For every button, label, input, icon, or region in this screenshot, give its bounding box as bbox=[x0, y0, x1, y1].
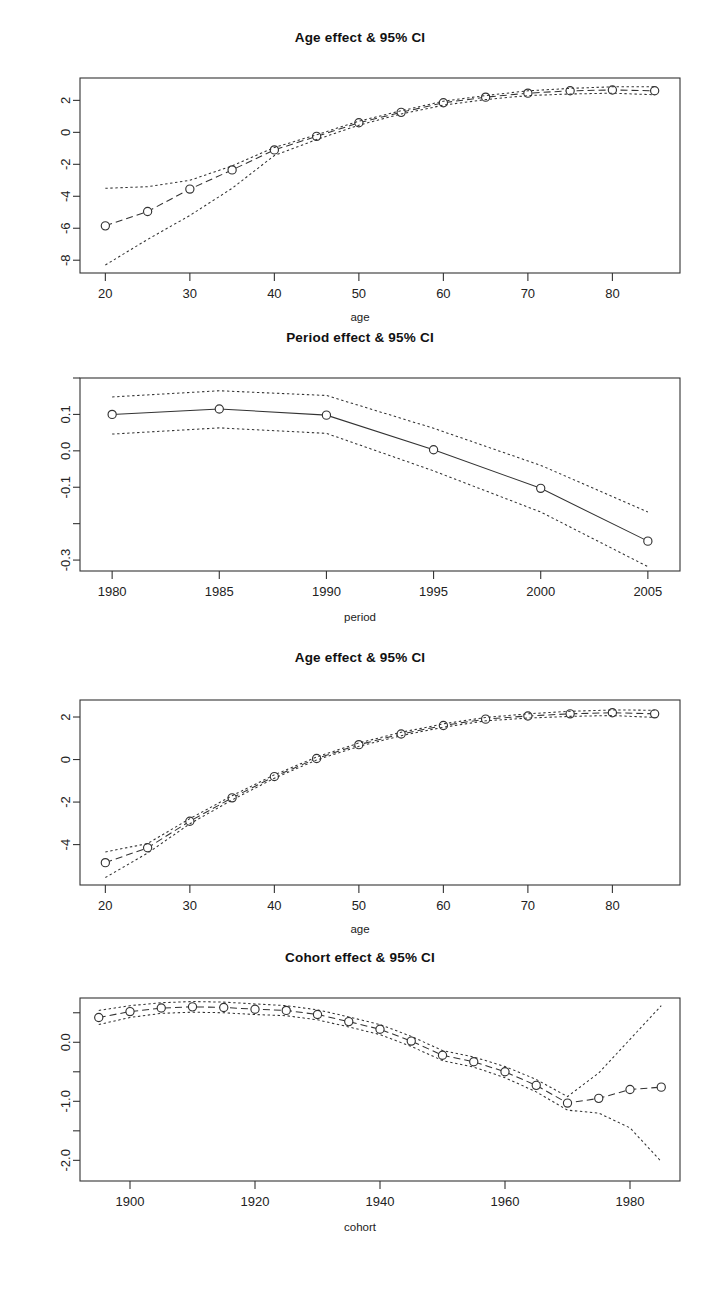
x-tick-label: 50 bbox=[352, 286, 366, 301]
data-point-marker bbox=[144, 207, 152, 215]
series-estimate bbox=[105, 713, 654, 863]
x-tick-label: 40 bbox=[267, 286, 281, 301]
series-lower-95-ci bbox=[112, 428, 648, 567]
plot-box bbox=[80, 700, 680, 885]
data-point-marker bbox=[537, 484, 545, 492]
chart-panel-period-effect: Period effect & 95% CI0.10.0-0.1-0.31980… bbox=[0, 330, 720, 345]
x-axis-label: age bbox=[0, 311, 720, 323]
series-upper-95-ci bbox=[99, 1002, 662, 1097]
data-point-marker bbox=[157, 1004, 165, 1012]
data-point-marker bbox=[626, 1085, 634, 1093]
data-point-marker bbox=[220, 1003, 228, 1011]
x-tick-label: 1980 bbox=[98, 584, 127, 599]
data-point-marker bbox=[345, 1018, 353, 1026]
data-point-marker bbox=[501, 1068, 509, 1076]
x-tick-label: 1920 bbox=[241, 1194, 270, 1209]
x-tick-label: 60 bbox=[436, 286, 450, 301]
y-tick-label: 0 bbox=[59, 756, 74, 763]
chart-panel-cohort-effect: Cohort effect & 95% CI0.0-1.0-2.01900192… bbox=[0, 950, 720, 965]
plot-box bbox=[80, 378, 680, 571]
x-axis-label: age bbox=[0, 923, 720, 935]
x-tick-label: 20 bbox=[98, 898, 112, 913]
data-point-marker bbox=[482, 715, 490, 723]
series-upper-95-ci bbox=[112, 391, 648, 512]
data-point-marker bbox=[313, 1010, 321, 1018]
y-tick-label: -0.1 bbox=[59, 476, 74, 498]
data-point-marker bbox=[470, 1058, 478, 1066]
x-axis-label: cohort bbox=[0, 1221, 720, 1233]
data-point-marker bbox=[438, 1051, 446, 1059]
x-tick-label: 1980 bbox=[616, 1194, 645, 1209]
x-tick-label: 1985 bbox=[205, 584, 234, 599]
y-tick-label: 0.0 bbox=[59, 1033, 74, 1051]
data-point-marker bbox=[126, 1007, 134, 1015]
series-upper-95-ci bbox=[105, 710, 654, 852]
x-tick-label: 30 bbox=[183, 286, 197, 301]
data-point-marker bbox=[532, 1081, 540, 1089]
x-tick-label: 1900 bbox=[116, 1194, 145, 1209]
y-tick-label: 0.0 bbox=[59, 442, 74, 460]
y-tick-label: 0 bbox=[59, 129, 74, 136]
data-point-marker bbox=[215, 405, 223, 413]
y-tick-label: -2 bbox=[59, 159, 74, 171]
data-point-marker bbox=[429, 446, 437, 454]
x-tick-label: 1940 bbox=[366, 1194, 395, 1209]
data-point-marker bbox=[101, 222, 109, 230]
data-point-marker bbox=[651, 87, 659, 95]
series-estimate bbox=[112, 409, 648, 541]
data-point-marker bbox=[251, 1005, 259, 1013]
data-point-marker bbox=[595, 1094, 603, 1102]
y-tick-label: -8 bbox=[59, 254, 74, 266]
series-estimate bbox=[99, 1007, 662, 1103]
series-estimate bbox=[105, 90, 654, 226]
data-point-marker bbox=[144, 844, 152, 852]
data-point-marker bbox=[376, 1025, 384, 1033]
data-point-marker bbox=[95, 1013, 103, 1021]
series-upper-95-ci bbox=[105, 87, 654, 188]
data-point-marker bbox=[101, 859, 109, 867]
x-tick-label: 70 bbox=[521, 286, 535, 301]
x-tick-label: 40 bbox=[267, 898, 281, 913]
y-tick-label: -2 bbox=[59, 796, 74, 808]
plot-area: 0.10.0-0.1-0.3198019851990199520002005 bbox=[0, 330, 720, 617]
chart-panel-age-effect-bottom: Age effect & 95% CI20-2-420304050607080a… bbox=[0, 650, 720, 665]
y-tick-label: 2 bbox=[59, 97, 74, 104]
x-tick-label: 60 bbox=[436, 898, 450, 913]
plot-area: 20-2-4-6-820304050607080 bbox=[0, 30, 720, 319]
y-tick-label: -1.0 bbox=[59, 1090, 74, 1112]
y-tick-label: -4 bbox=[59, 839, 74, 851]
data-point-marker bbox=[563, 1099, 571, 1107]
x-tick-label: 70 bbox=[521, 898, 535, 913]
x-tick-label: 1995 bbox=[419, 584, 448, 599]
x-tick-label: 20 bbox=[98, 286, 112, 301]
y-tick-label: 0.1 bbox=[59, 405, 74, 423]
data-point-marker bbox=[322, 411, 330, 419]
data-point-marker bbox=[524, 712, 532, 720]
y-tick-label: -2.0 bbox=[59, 1149, 74, 1171]
series-lower-95-ci bbox=[105, 93, 654, 265]
data-point-marker bbox=[282, 1006, 290, 1014]
x-tick-label: 30 bbox=[183, 898, 197, 913]
series-lower-95-ci bbox=[99, 1012, 662, 1161]
x-tick-label: 1990 bbox=[312, 584, 341, 599]
data-point-marker bbox=[108, 410, 116, 418]
data-point-marker bbox=[188, 1003, 196, 1011]
data-point-marker bbox=[651, 710, 659, 718]
x-tick-label: 80 bbox=[605, 286, 619, 301]
plot-area: 20-2-420304050607080 bbox=[0, 650, 720, 931]
x-tick-label: 50 bbox=[352, 898, 366, 913]
data-point-marker bbox=[644, 537, 652, 545]
y-tick-label: 2 bbox=[59, 713, 74, 720]
plot-area: 0.0-1.0-2.019001920194019601980 bbox=[0, 950, 720, 1227]
data-point-marker bbox=[657, 1083, 665, 1091]
chart-panel-age-effect-top: Age effect & 95% CI20-2-4-6-820304050607… bbox=[0, 30, 720, 45]
y-tick-label: -6 bbox=[59, 222, 74, 234]
x-tick-label: 80 bbox=[605, 898, 619, 913]
x-axis-label: period bbox=[0, 611, 720, 623]
y-tick-label: -0.3 bbox=[59, 549, 74, 571]
x-tick-label: 1960 bbox=[491, 1194, 520, 1209]
x-tick-label: 2005 bbox=[633, 584, 662, 599]
plot-box bbox=[80, 78, 680, 273]
data-point-marker bbox=[186, 185, 194, 193]
y-tick-label: -4 bbox=[59, 190, 74, 202]
